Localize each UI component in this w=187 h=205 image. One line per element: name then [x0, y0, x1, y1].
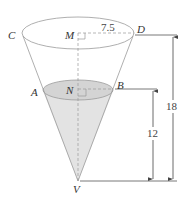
- label-water-height: 12: [147, 127, 158, 139]
- label-M: M: [64, 29, 75, 41]
- label-N: N: [65, 84, 74, 96]
- cone-diagram: C D M 7.5 A N B V 18 12: [0, 0, 187, 205]
- label-top-radius: 7.5: [101, 21, 115, 33]
- label-total-height: 18: [166, 100, 178, 112]
- right-angle-M-icon: [78, 33, 85, 39]
- label-B: B: [117, 79, 124, 91]
- label-V: V: [73, 183, 81, 195]
- label-C: C: [8, 29, 16, 41]
- label-D: D: [136, 23, 145, 35]
- label-A: A: [30, 86, 38, 98]
